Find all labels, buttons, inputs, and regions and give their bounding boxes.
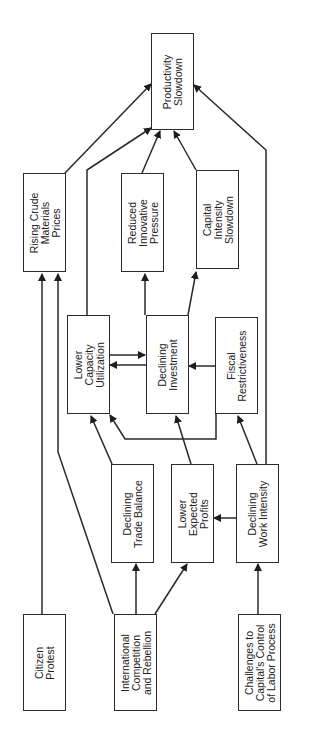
- edge-trade-to-capacity: [91, 416, 112, 464]
- node-declining-trade-balance: Declining Trade Balance: [111, 464, 154, 563]
- node-international-competition: International Competition and Rebellion: [114, 614, 157, 711]
- node-productivity-slowdown: Productivity Slowdown: [151, 33, 194, 130]
- node-label: Citizen Protest: [34, 615, 56, 711]
- node-rising-crude-materials-prices: Rising Crude Materials Prices: [23, 173, 66, 272]
- node-label: Lower Capacity Utilization: [72, 317, 105, 413]
- edge-rising-to-productivity: [65, 84, 151, 173]
- node-capital-intensity-slowdown: Capital Intensity Slowdown: [196, 170, 239, 269]
- node-challenges-labor-process: Challenges to Capital's Control of Labor…: [238, 614, 281, 711]
- node-label: Challenges to Capital's Control of Labor…: [243, 615, 276, 711]
- node-citizen-protest: Citizen Protest: [23, 614, 66, 711]
- node-label: Lower Expected Profits: [176, 466, 209, 562]
- node-label: Declining Work Intensity: [247, 466, 269, 562]
- node-lower-capacity-utilization: Lower Capacity Utilization: [67, 315, 110, 414]
- node-fiscal-restrictiveness: Fiscal Restrictiveness: [215, 317, 258, 414]
- node-declining-investment: Declining Investment: [146, 315, 189, 414]
- node-label: Fiscal Restrictiveness: [226, 318, 248, 414]
- edge-international-to-profits: [155, 564, 187, 614]
- node-lower-expected-profits: Lower Expected Profits: [171, 464, 214, 563]
- node-label: Capital Intensity Slowdown: [201, 172, 234, 268]
- node-label: Rising Crude Materials Prices: [28, 175, 61, 271]
- node-label: International Competition and Rebellion: [119, 615, 152, 711]
- edge-innovative-to-productivity: [142, 131, 160, 173]
- edge-fiscal-to-capacity: [110, 413, 216, 439]
- edge-investment-to-capital: [188, 272, 196, 315]
- node-label: Productivity Slowdown: [162, 34, 184, 130]
- edge-profits-to-investment: [176, 416, 191, 464]
- node-label: Reduced Innovative Pressure: [126, 175, 159, 271]
- node-label: Declining Trade Balance: [122, 466, 144, 562]
- node-reduced-innovative-pressure: Reduced Innovative Pressure: [121, 173, 164, 272]
- edge-work-to-fiscal: [238, 416, 257, 464]
- edge-capital-to-productivity: [174, 131, 196, 170]
- node-declining-work-intensity: Declining Work Intensity: [236, 464, 279, 563]
- node-label: Declining Investment: [157, 317, 179, 413]
